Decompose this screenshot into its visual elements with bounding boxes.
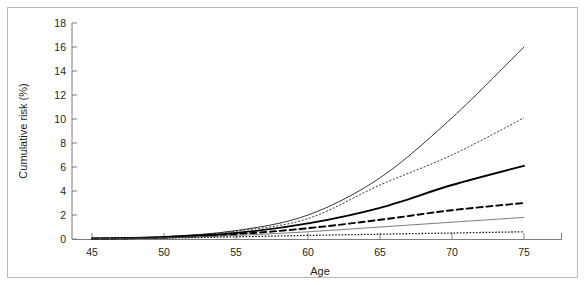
x-tick-label: 55 bbox=[230, 246, 242, 258]
x-tick-label: 70 bbox=[446, 246, 458, 258]
figure-container: 024681012141618 45505560657075 Cumulativ… bbox=[0, 0, 585, 285]
series-line-curve-3 bbox=[92, 166, 524, 239]
y-axis-tick-labels: 024681012141618 bbox=[54, 17, 66, 245]
y-tick-label: 2 bbox=[60, 209, 66, 221]
y-tick-label: 12 bbox=[54, 89, 66, 101]
x-tick-label: 65 bbox=[374, 246, 386, 258]
cumulative-risk-line-chart: 024681012141618 45505560657075 Cumulativ… bbox=[0, 0, 585, 285]
y-tick-label: 18 bbox=[54, 17, 66, 29]
y-tick-label: 0 bbox=[60, 233, 66, 245]
x-tick-label: 50 bbox=[158, 246, 170, 258]
y-tick-label: 4 bbox=[60, 185, 66, 197]
data-series-group bbox=[92, 47, 524, 239]
y-tick-label: 16 bbox=[54, 41, 66, 53]
x-tick-label: 60 bbox=[302, 246, 314, 258]
y-tick-label: 8 bbox=[60, 137, 66, 149]
y-axis-ticks bbox=[72, 23, 77, 239]
y-tick-label: 10 bbox=[54, 113, 66, 125]
y-tick-label: 14 bbox=[54, 65, 66, 77]
x-axis-title: Age bbox=[310, 265, 330, 277]
x-tick-label: 75 bbox=[518, 246, 530, 258]
x-axis-tick-labels: 45505560657075 bbox=[86, 246, 530, 258]
series-line-curve-2 bbox=[92, 118, 524, 239]
x-tick-label: 45 bbox=[86, 246, 98, 258]
y-tick-label: 6 bbox=[60, 161, 66, 173]
y-axis-title: Cumulative risk (%) bbox=[17, 83, 29, 178]
